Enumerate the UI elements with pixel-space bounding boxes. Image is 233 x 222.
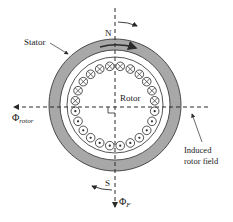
conductor-cross — [86, 70, 95, 79]
stator-leader-line — [50, 43, 68, 54]
phi-rotor-subscript: rotor — [19, 117, 33, 125]
stator-label: Stator — [24, 37, 46, 47]
south-pole-label: S — [105, 178, 110, 188]
conductor-cross — [150, 96, 159, 105]
conductor-dot — [71, 107, 80, 116]
phi-rotor-symbol: Φ — [12, 112, 19, 123]
conductor-dot — [74, 117, 83, 126]
conductor-dot — [116, 141, 125, 150]
conductor-dot — [95, 139, 104, 148]
conductor-cross — [148, 86, 157, 95]
conductor-dot — [79, 126, 88, 135]
conductor-dot — [142, 126, 151, 135]
conductor-cross — [79, 77, 88, 86]
conductor-cross — [142, 77, 151, 86]
rotor-label: Rotor — [120, 93, 141, 103]
phi-f-label: ΦF — [119, 196, 131, 209]
conductor-cross — [135, 70, 144, 79]
induced-field-leader-line — [192, 114, 202, 142]
phi-rotor-label: Φrotor — [12, 112, 34, 125]
conductor-cross — [116, 62, 125, 71]
conductor-dot — [150, 107, 159, 116]
conductor-cross — [71, 96, 80, 105]
conductor-cross — [95, 65, 104, 74]
conductor-cross — [126, 65, 135, 74]
conductor-cross — [105, 62, 114, 71]
north-pole-label: N — [105, 28, 112, 38]
conductor-dot — [105, 141, 114, 150]
conductor-cross — [74, 86, 83, 95]
induced-rotor-field-label-line1: Induced — [184, 145, 212, 155]
conductor-dot — [126, 139, 135, 148]
induced-rotor-field-label-line2: rotor field — [184, 156, 219, 166]
north-rotation-arrow — [118, 22, 137, 26]
phi-f-subscript: F — [125, 201, 131, 209]
conductor-dot — [86, 133, 95, 142]
induction-motor-diagram: Stator Rotor N S Φrotor ΦF Induced rotor… — [0, 0, 233, 222]
conductor-dot — [135, 133, 144, 142]
conductor-dot — [148, 117, 157, 126]
phi-f-symbol: Φ — [119, 196, 126, 207]
